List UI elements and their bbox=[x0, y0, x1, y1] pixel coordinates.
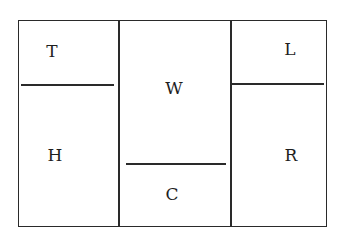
label-w: W bbox=[165, 80, 182, 97]
divider-right-vertical bbox=[230, 21, 232, 227]
label-c: C bbox=[165, 186, 178, 203]
label-r: R bbox=[285, 147, 298, 164]
divider-t-h bbox=[21, 84, 114, 86]
divider-w-c bbox=[126, 163, 226, 165]
label-h: H bbox=[48, 147, 63, 164]
divider-left-vertical bbox=[118, 21, 120, 227]
label-t: T bbox=[46, 43, 57, 60]
label-l: L bbox=[284, 41, 295, 58]
divider-l-r bbox=[232, 83, 324, 85]
